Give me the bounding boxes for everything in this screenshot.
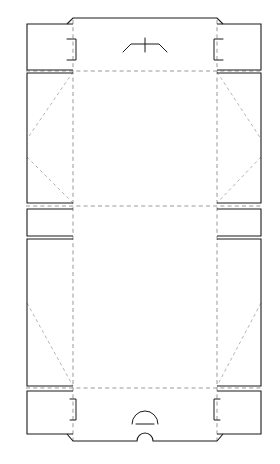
dieline-canvas: Box Dieline Template Cut line Fold / sco… (0, 0, 280, 464)
dieline-drawing (0, 0, 280, 464)
